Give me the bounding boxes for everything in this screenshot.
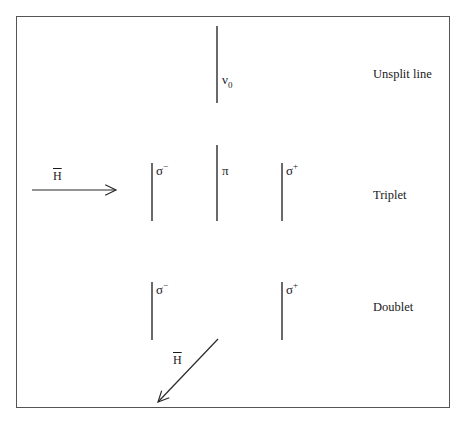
triplet-pi-label: π: [222, 164, 229, 177]
spectral-lines: [152, 26, 282, 340]
sigma-symbol: σ: [286, 163, 293, 178]
plus-superscript: +: [293, 161, 298, 171]
zeeman-diagram: [0, 0, 466, 425]
h-transverse-arrow-icon: [32, 185, 116, 195]
sigma-symbol: σ: [156, 163, 163, 178]
row-label-doublet: Doublet: [373, 301, 413, 314]
minus-superscript: −: [163, 161, 168, 171]
h-longitudinal-arrow-icon: [158, 339, 218, 402]
sigma-symbol: σ: [286, 282, 293, 297]
row-label-unsplit: Unsplit line: [373, 68, 432, 81]
sigma-symbol: σ: [156, 282, 163, 297]
minus-superscript: −: [163, 280, 168, 290]
field-arrows: [32, 185, 218, 402]
plus-superscript: +: [293, 280, 298, 290]
nu0-label: ν0: [222, 73, 232, 86]
h-field-label-transverse: H: [53, 170, 62, 182]
row-label-triplet: Triplet: [373, 189, 407, 202]
nu-subscript: 0: [228, 80, 233, 90]
h-field-label-longitudinal: H: [173, 354, 182, 366]
doublet-sigma-plus-label: σ+: [286, 283, 298, 296]
doublet-sigma-minus-label: σ−: [156, 283, 168, 296]
triplet-sigma-minus-label: σ−: [156, 164, 168, 177]
triplet-sigma-plus-label: σ+: [286, 164, 298, 177]
pi-symbol: π: [222, 163, 229, 178]
